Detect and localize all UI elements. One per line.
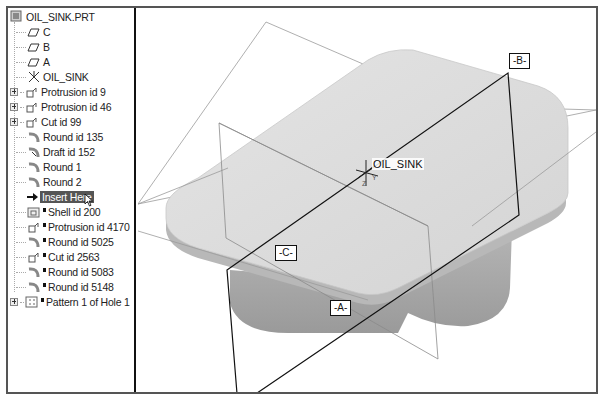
tree-item-round-135[interactable]: Round id 135: [16, 129, 136, 145]
tree-item-datum-b[interactable]: B: [16, 39, 136, 55]
tree-item-round-5025[interactable]: Round id 5025: [16, 234, 136, 250]
new-feature-marker: [43, 208, 46, 212]
tree-connector: [16, 212, 26, 213]
protrusion-icon: [25, 100, 39, 114]
tree-connector: [16, 287, 26, 288]
tree-item-round-1[interactable]: Round 1: [16, 159, 136, 175]
tree-connector: [16, 272, 26, 273]
tree-item-round-5083[interactable]: Round id 5083: [16, 264, 136, 280]
round-icon: [27, 175, 41, 189]
shell-icon: [27, 205, 41, 219]
tree-item-csys[interactable]: OIL_SINK: [16, 69, 136, 85]
tree-item-label: Round id 5083: [48, 266, 114, 278]
tree-item-protrusion-46[interactable]: Protrusion id 46: [10, 99, 136, 115]
tree-connector: [16, 47, 26, 48]
tree-item-label: Round 2: [43, 176, 81, 188]
tree-item-cut-99[interactable]: Cut id 99: [10, 114, 136, 130]
tree-connector: [16, 242, 26, 243]
graphics-viewport[interactable]: -B- -C- -A- OIL_SINK Z Y: [138, 8, 596, 392]
tree-connector: [16, 227, 26, 228]
tree-item-insert-here[interactable]: Insert Here: [26, 189, 136, 205]
tree-connector: [16, 137, 26, 138]
datum-tag-c[interactable]: -C-: [275, 245, 297, 261]
coordinate-system-icon: [27, 70, 41, 84]
expand-toggle[interactable]: [10, 118, 18, 126]
datum-plane-icon: [27, 25, 41, 39]
new-feature-marker: [41, 298, 44, 302]
tree-item-label: C: [43, 26, 50, 38]
application-frame: OIL_SINK.PRT C B A OIL_SINK: [6, 6, 598, 394]
expand-toggle[interactable]: [10, 103, 18, 111]
round-icon: [27, 160, 41, 174]
tree-item-cut-2563[interactable]: Cut id 2563: [16, 249, 136, 265]
datum-tag-a[interactable]: -A-: [330, 300, 351, 316]
tree-item-shell-200[interactable]: Shell id 200: [16, 204, 136, 220]
new-feature-marker: [43, 253, 46, 257]
tree-item-pattern-1[interactable]: Pattern 1 of Hole 1: [10, 294, 136, 310]
tree-item-label: Cut id 2563: [48, 251, 100, 263]
round-icon: [27, 265, 41, 279]
tree-connector: [16, 77, 26, 78]
tree-item-datum-c[interactable]: C: [16, 24, 136, 40]
new-feature-marker: [43, 238, 46, 242]
datum-tag-b[interactable]: -B-: [509, 53, 530, 69]
tree-item-round-2[interactable]: Round 2: [16, 174, 136, 190]
tree-item-label: Round id 135: [43, 131, 103, 143]
expand-toggle[interactable]: [10, 298, 18, 306]
tree-item-label: Cut id 99: [41, 116, 81, 128]
tree-connector: [16, 182, 26, 183]
protrusion-icon: [25, 85, 39, 99]
tree-item-label: Round id 5025: [48, 236, 114, 248]
protrusion-icon: [27, 220, 41, 234]
tree-connector: [16, 62, 26, 63]
tree-connector: [20, 107, 24, 108]
model-tree[interactable]: OIL_SINK.PRT C B A OIL_SINK: [8, 8, 136, 392]
round-icon: [27, 130, 41, 144]
insert-arrow-icon: [26, 190, 40, 204]
tree-connector: [16, 167, 26, 168]
round-icon: [27, 280, 41, 294]
csys-label[interactable]: OIL_SINK: [372, 158, 424, 170]
new-feature-marker: [43, 223, 46, 227]
tree-item-round-5148[interactable]: Round id 5148: [16, 279, 136, 295]
tree-root-label: OIL_SINK.PRT: [26, 11, 95, 23]
draft-icon: [27, 145, 41, 159]
csys-axis-y: Y: [372, 174, 377, 181]
cut-icon: [27, 250, 41, 264]
tree-item-label: Protrusion id 9: [41, 86, 106, 98]
tree-item-datum-a[interactable]: A: [16, 54, 136, 70]
round-icon: [27, 235, 41, 249]
datum-plane-icon: [27, 55, 41, 69]
tree-item-label: Draft id 152: [43, 146, 95, 158]
tree-item-protrusion-9[interactable]: Protrusion id 9: [10, 84, 136, 100]
tree-item-protrusion-4170[interactable]: Protrusion id 4170: [16, 219, 136, 235]
tree-connector: [16, 32, 26, 33]
tree-item-label: Protrusion id 4170: [48, 221, 130, 233]
new-feature-marker: [43, 283, 46, 287]
csys-axis-z: Z: [362, 180, 366, 187]
tree-connector: [20, 122, 24, 123]
tree-item-draft-152[interactable]: Draft id 152: [16, 144, 136, 160]
tree-root[interactable]: OIL_SINK.PRT: [10, 9, 136, 25]
tree-connector: [20, 92, 24, 93]
cut-icon: [25, 115, 39, 129]
tree-item-label: Pattern 1 of Hole 1: [46, 296, 130, 308]
tree-connector: [20, 302, 24, 303]
expand-toggle[interactable]: [10, 88, 18, 96]
tree-connector: [16, 152, 26, 153]
tree-connector: [16, 257, 26, 258]
part-icon: [10, 10, 24, 24]
tree-item-label: B: [43, 41, 50, 53]
tree-item-label: OIL_SINK: [43, 71, 89, 83]
pattern-icon: [25, 295, 39, 309]
tree-item-label: A: [43, 56, 50, 68]
new-feature-marker: [43, 268, 46, 272]
tree-item-label: Protrusion id 46: [41, 101, 111, 113]
tree-connector-line: [14, 22, 15, 292]
datum-plane-icon: [27, 40, 41, 54]
tree-item-label: Round id 5148: [48, 281, 114, 293]
tree-item-label: Shell id 200: [48, 206, 100, 218]
tree-item-label: Round 1: [43, 161, 81, 173]
